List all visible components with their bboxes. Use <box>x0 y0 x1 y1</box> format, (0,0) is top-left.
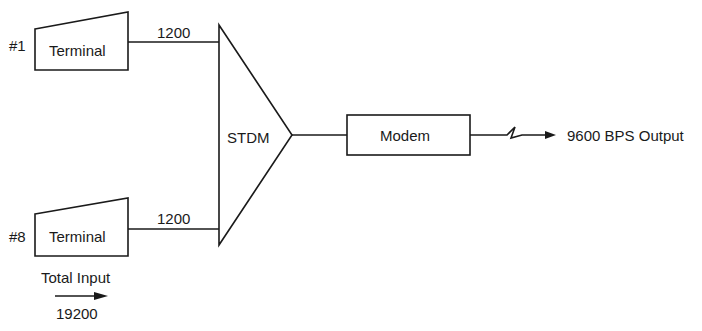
output-arrowhead-icon <box>545 131 556 139</box>
terminal-1-label: Terminal <box>49 43 106 58</box>
total-input-value: 19200 <box>56 306 98 321</box>
total-input-arrowhead-icon <box>94 292 108 300</box>
terminal-1-shape <box>35 12 128 70</box>
terminal-1-id: #1 <box>9 38 26 53</box>
terminal-1-rate: 1200 <box>157 25 190 40</box>
terminal-8-label: Terminal <box>49 229 106 244</box>
output-line-icon <box>470 127 545 138</box>
modem-label: Modem <box>380 128 430 143</box>
terminal-8-id: #8 <box>9 229 26 244</box>
terminal-8-shape <box>35 198 128 256</box>
total-input-label: Total Input <box>41 270 110 285</box>
terminal-8-rate: 1200 <box>157 211 190 226</box>
stdm-label: STDM <box>227 130 270 145</box>
output-label: 9600 BPS Output <box>567 128 684 143</box>
